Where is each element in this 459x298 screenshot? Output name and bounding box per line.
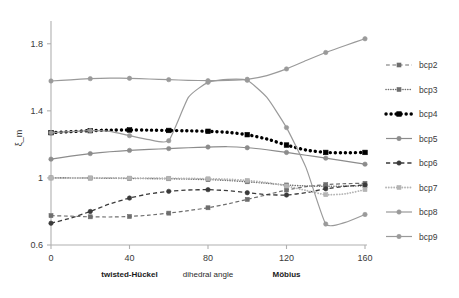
data-point xyxy=(206,177,210,181)
legend-label: bcp7 xyxy=(419,183,438,193)
legend-item-bcp3[interactable]: bcp3 xyxy=(386,85,438,95)
data-point xyxy=(284,143,289,148)
data-point xyxy=(363,212,367,216)
series-bcp4 xyxy=(49,128,368,155)
data-point xyxy=(245,132,250,137)
x-tick-label: 120 xyxy=(279,253,294,263)
legend-label: bcp3 xyxy=(419,85,438,95)
legend-label: bcp8 xyxy=(419,207,438,217)
data-point xyxy=(128,214,132,218)
data-point xyxy=(128,176,132,180)
x-axis-annotation: twisted-Hückel xyxy=(101,270,157,279)
data-point xyxy=(49,176,53,180)
data-point xyxy=(245,197,249,201)
legend-marker xyxy=(397,63,401,67)
y-tick-label: 0.6 xyxy=(30,240,43,250)
legend-item-bcp4[interactable]: bcp4 xyxy=(386,109,438,119)
data-point xyxy=(245,178,249,182)
data-point xyxy=(324,50,328,54)
data-point xyxy=(167,189,171,193)
legend-label: bcp4 xyxy=(419,109,438,119)
data-point xyxy=(88,76,92,80)
x-tick-label: 80 xyxy=(203,253,213,263)
y-tick-label: 1.4 xyxy=(30,106,43,116)
series-bcp5 xyxy=(49,145,367,167)
data-point xyxy=(285,188,289,192)
x-axis-annotation: dihedral angle xyxy=(183,270,234,279)
legend-item-bcp8[interactable]: bcp8 xyxy=(386,207,438,217)
legend-item-bcp7[interactable]: bcp7 xyxy=(386,183,438,193)
series-line xyxy=(51,39,365,81)
legend-item-bcp9[interactable]: bcp9 xyxy=(386,232,438,242)
data-point xyxy=(324,156,328,160)
data-point xyxy=(245,77,249,81)
data-point xyxy=(284,150,288,154)
data-point xyxy=(363,162,367,166)
data-point xyxy=(323,150,328,155)
data-point xyxy=(167,77,171,81)
data-point xyxy=(245,190,249,194)
data-point xyxy=(49,79,53,83)
data-point xyxy=(88,128,92,132)
legend-marker xyxy=(397,161,401,165)
legend-item-bcp5[interactable]: bcp5 xyxy=(386,134,438,144)
data-point xyxy=(167,146,171,150)
data-point xyxy=(167,211,171,215)
data-point xyxy=(127,133,131,137)
data-point xyxy=(245,146,249,150)
legend-marker xyxy=(397,234,401,238)
data-point xyxy=(206,206,210,210)
line-chart: 0.611.41.804080120160twisted-Hückeldihed… xyxy=(0,0,459,298)
data-point xyxy=(49,221,53,225)
data-point xyxy=(206,187,210,191)
y-tick-label: 1.8 xyxy=(30,39,43,49)
legend-label: bcp2 xyxy=(419,60,438,70)
data-point xyxy=(284,125,288,129)
data-point xyxy=(284,193,288,197)
data-point xyxy=(363,37,367,41)
data-point xyxy=(88,176,92,180)
legend-item-bcp6[interactable]: bcp6 xyxy=(386,158,438,168)
data-point xyxy=(206,145,210,149)
x-axis-annotation: Möbius xyxy=(273,270,302,279)
data-point xyxy=(324,222,328,226)
legend-label: bcp9 xyxy=(419,232,438,242)
legend-marker xyxy=(397,136,401,140)
x-tick-label: 0 xyxy=(48,253,53,263)
data-point xyxy=(88,151,92,155)
x-tick-label: 160 xyxy=(357,253,372,263)
data-point xyxy=(49,214,53,218)
data-point xyxy=(324,187,328,191)
data-point xyxy=(88,215,92,219)
data-point xyxy=(206,129,211,134)
series-bcp9 xyxy=(49,37,367,84)
x-tick-label: 40 xyxy=(124,253,134,263)
series-bcp6 xyxy=(49,183,367,226)
data-point xyxy=(127,196,131,200)
y-axis-label: ξ_m xyxy=(14,130,24,147)
y-tick-label: 1 xyxy=(38,173,43,183)
legend-marker xyxy=(397,186,401,190)
data-point xyxy=(167,176,171,180)
data-point xyxy=(324,193,328,197)
legend-label: bcp5 xyxy=(419,134,438,144)
data-point xyxy=(49,130,53,134)
legend-marker xyxy=(397,112,402,117)
chart-axes: 0.611.41.804080120160twisted-Hückeldihed… xyxy=(14,21,373,279)
data-point xyxy=(363,150,368,155)
data-point xyxy=(363,183,367,187)
data-point xyxy=(285,184,289,188)
data-point xyxy=(127,148,131,152)
legend-label: bcp6 xyxy=(419,158,438,168)
data-point xyxy=(363,188,367,192)
data-point xyxy=(166,128,171,133)
data-point xyxy=(284,67,288,71)
data-point xyxy=(167,138,171,142)
data-point xyxy=(49,157,53,161)
legend-marker xyxy=(397,88,401,92)
chart-figure: 0.611.41.804080120160twisted-Hückeldihed… xyxy=(0,0,459,298)
legend-marker xyxy=(397,210,401,214)
data-point xyxy=(88,209,92,213)
chart-legend: bcp2bcp3bcp4bcp5bcp6bcp7bcp8bcp9 xyxy=(386,60,438,242)
legend-item-bcp2[interactable]: bcp2 xyxy=(386,60,438,70)
